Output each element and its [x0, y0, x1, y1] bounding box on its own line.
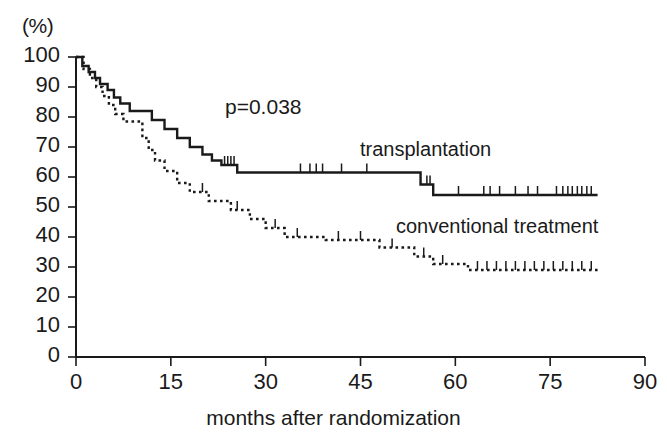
series-path-conventional-treatment [76, 57, 598, 270]
series-label-conventional-treatment: conventional treatment [396, 215, 598, 238]
y-tick-label: 50 [0, 192, 60, 218]
y-tick-label: 10 [0, 312, 60, 338]
y-tick-label: 30 [0, 252, 60, 278]
x-tick-label: 60 [415, 369, 495, 395]
x-tick-label: 90 [605, 369, 667, 395]
survival-curve-figure: (%) 0102030405060708090100 0153045607590… [0, 0, 667, 446]
x-axis-title: months after randomization [0, 406, 667, 430]
y-tick-label: 0 [0, 342, 60, 368]
y-tick-label: 90 [0, 72, 60, 98]
series-path-transplantation [76, 57, 598, 195]
x-tick-label: 45 [321, 369, 401, 395]
y-tick-label: 70 [0, 132, 60, 158]
p-value-annotation: p=0.038 [225, 95, 302, 119]
y-axis-unit-label: (%) [22, 14, 53, 38]
y-tick-label: 20 [0, 282, 60, 308]
x-tick-label: 30 [226, 369, 306, 395]
x-tick-label: 0 [36, 369, 116, 395]
series-label-transplantation: transplantation [360, 138, 491, 161]
x-tick-label: 15 [131, 369, 211, 395]
y-tick-label: 60 [0, 162, 60, 188]
series-group [76, 57, 598, 270]
y-tick-label: 80 [0, 102, 60, 128]
axes-group [68, 57, 645, 367]
y-tick-label: 40 [0, 222, 60, 248]
y-tick-label: 100 [0, 42, 60, 68]
x-tick-label: 75 [510, 369, 590, 395]
